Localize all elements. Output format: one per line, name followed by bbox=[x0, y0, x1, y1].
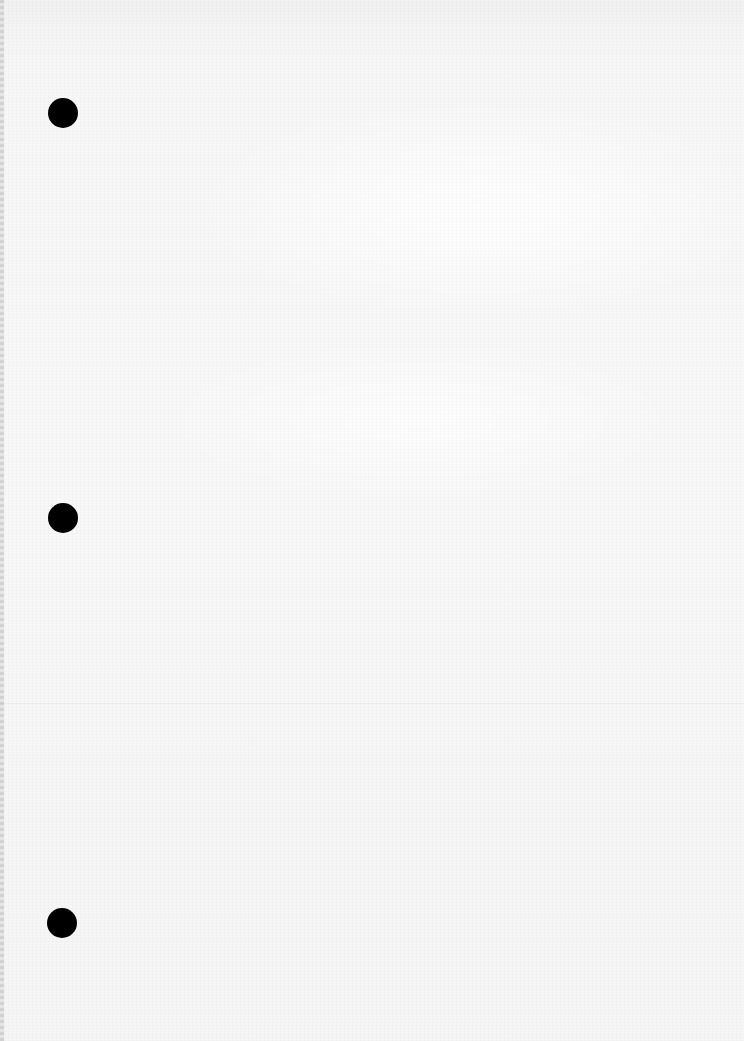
scan-edge-shadow bbox=[0, 0, 4, 1041]
punch-hole-icon bbox=[48, 503, 78, 533]
punch-hole-icon bbox=[47, 908, 77, 938]
faint-scan-line bbox=[0, 703, 744, 704]
scanned-page bbox=[0, 0, 744, 1041]
punch-hole-icon bbox=[48, 98, 78, 128]
paper-texture bbox=[0, 0, 744, 1041]
